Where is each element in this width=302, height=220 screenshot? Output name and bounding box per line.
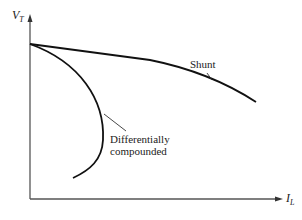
- diagram-canvas: [0, 0, 302, 220]
- shunt-label: Shunt: [190, 58, 216, 70]
- x-axis-arrow-icon: [275, 197, 283, 202]
- differential-curve: [30, 44, 103, 178]
- differential-label-line1: Differentially: [110, 133, 170, 145]
- differential-pointer: [104, 114, 126, 131]
- shunt-curve: [30, 44, 256, 102]
- y-axis-label: VT: [12, 9, 24, 26]
- y-axis-arrow-icon: [28, 14, 33, 22]
- differential-label-line2: compounded: [110, 145, 167, 157]
- x-axis-label: IL: [286, 192, 294, 209]
